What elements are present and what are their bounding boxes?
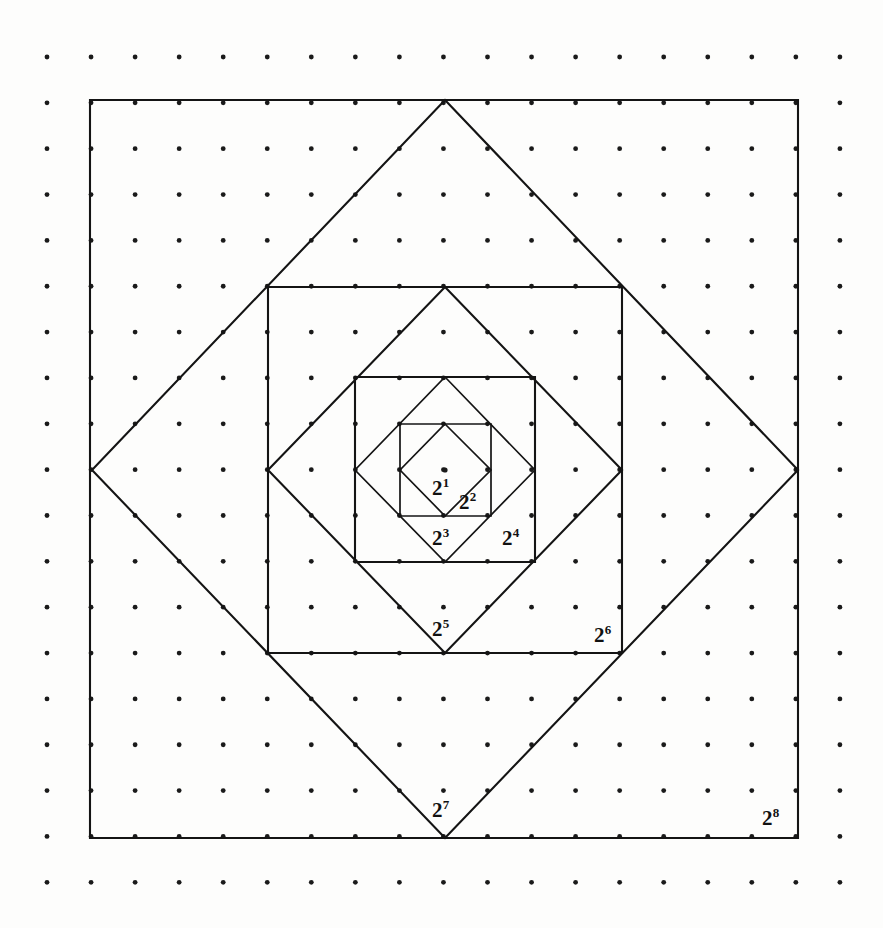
- grid-dot: [309, 330, 314, 335]
- grid-dot: [397, 55, 402, 60]
- grid-dot: [309, 146, 314, 151]
- label-2-2: 22: [459, 492, 476, 513]
- grid-dot: [221, 880, 226, 885]
- grid-dot: [573, 55, 578, 60]
- grid-dot: [749, 697, 754, 702]
- grid-dot: [661, 192, 666, 197]
- grid-dot: [661, 376, 666, 381]
- grid-dot: [353, 697, 358, 702]
- grid-dot: [661, 421, 666, 426]
- grid-dot: [133, 605, 138, 610]
- grid-dot: [749, 55, 754, 60]
- grid-dot: [617, 788, 622, 793]
- grid-dot: [89, 880, 94, 885]
- center-dot: [442, 467, 447, 472]
- grid-dot: [265, 192, 270, 197]
- grid-dot: [221, 651, 226, 656]
- grid-dot: [177, 467, 182, 472]
- grid-dot: [749, 100, 754, 105]
- label-2-6: 26: [594, 625, 611, 646]
- label-2-8-base: 2: [762, 806, 773, 830]
- grid-dot: [45, 559, 50, 564]
- grid-dot: [705, 605, 710, 610]
- grid-dot: [793, 55, 798, 60]
- grid-dot: [485, 742, 490, 747]
- grid-dot: [45, 880, 50, 885]
- grid-dot: [45, 742, 50, 747]
- grid-dot: [573, 605, 578, 610]
- grid-dot: [221, 697, 226, 702]
- grid-dot: [661, 697, 666, 702]
- grid-dot: [838, 284, 843, 289]
- grid-dot: [353, 100, 358, 105]
- grid-dot: [529, 697, 534, 702]
- grid-dot: [397, 697, 402, 702]
- grid-dot: [45, 513, 50, 518]
- grid-dot: [529, 788, 534, 793]
- grid-dot: [617, 192, 622, 197]
- label-2-1-base: 2: [432, 476, 443, 500]
- grid-dot: [705, 697, 710, 702]
- grid-dot: [221, 55, 226, 60]
- grid-dot: [705, 467, 710, 472]
- grid-dot: [661, 880, 666, 885]
- grid-dot: [793, 880, 798, 885]
- grid-dot: [353, 788, 358, 793]
- grid-dot: [133, 146, 138, 151]
- grid-dot: [838, 834, 843, 839]
- grid-dot: [221, 559, 226, 564]
- grid-dot: [838, 697, 843, 702]
- grid-dot: [397, 742, 402, 747]
- grid-dot: [441, 788, 446, 793]
- grid-dot: [617, 238, 622, 243]
- grid-dot: [221, 513, 226, 518]
- grid-dot: [838, 880, 843, 885]
- grid-dot: [485, 55, 490, 60]
- grid-dot: [749, 238, 754, 243]
- grid-dot: [529, 605, 534, 610]
- grid-dot: [749, 330, 754, 335]
- grid-dot: [441, 330, 446, 335]
- grid-dot: [45, 421, 50, 426]
- label-2-6-base: 2: [594, 623, 605, 647]
- grid-dot: [177, 742, 182, 747]
- label-2-1-exponent: 1: [443, 475, 450, 490]
- grid-dot: [441, 192, 446, 197]
- grid-dot: [133, 467, 138, 472]
- grid-dot: [45, 55, 50, 60]
- label-2-8: 28: [762, 808, 779, 829]
- grid-dot: [177, 421, 182, 426]
- label-2-2-exponent: 2: [470, 489, 477, 504]
- grid-dot: [221, 467, 226, 472]
- grid-dot: [353, 238, 358, 243]
- grid-dot: [177, 146, 182, 151]
- label-2-3-exponent: 3: [443, 525, 450, 540]
- grid-dot: [573, 880, 578, 885]
- grid-dot: [177, 330, 182, 335]
- grid-dot: [705, 100, 710, 105]
- grid-dot: [45, 146, 50, 151]
- label-2-7-exponent: 7: [443, 797, 450, 812]
- grid-dot: [177, 513, 182, 518]
- grid-dot: [661, 55, 666, 60]
- grid-dot: [45, 238, 50, 243]
- grid-dot: [529, 55, 534, 60]
- grid-dot: [617, 742, 622, 747]
- grid-dot: [177, 651, 182, 656]
- grid-dot: [45, 788, 50, 793]
- grid-dot: [749, 605, 754, 610]
- grid-dot: [573, 376, 578, 381]
- grid-dot: [133, 880, 138, 885]
- grid-dot: [705, 880, 710, 885]
- grid-dot: [661, 513, 666, 518]
- label-2-3-base: 2: [432, 526, 443, 550]
- grid-dot: [617, 697, 622, 702]
- grid-dot: [441, 55, 446, 60]
- grid-dot: [749, 192, 754, 197]
- grid-dot: [45, 467, 50, 472]
- grid-dot: [573, 788, 578, 793]
- grid-dot: [265, 100, 270, 105]
- grid-dot: [573, 559, 578, 564]
- grid-dot: [661, 146, 666, 151]
- grid-dot: [529, 100, 534, 105]
